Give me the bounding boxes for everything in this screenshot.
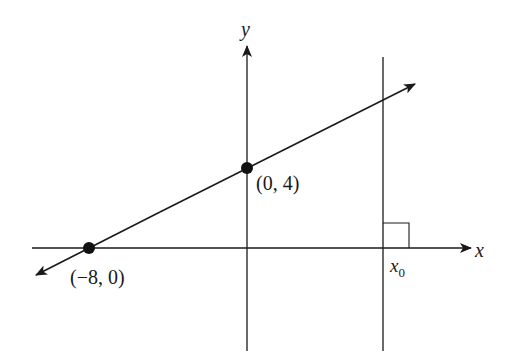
point-label-x-intercept: (−8, 0) — [70, 266, 125, 289]
right-angle-marker — [383, 223, 409, 248]
point-x-intercept — [83, 242, 95, 254]
x0-label-sub: 0 — [398, 265, 405, 280]
coordinate-diagram: y x x0 (0, 4) (−8, 0) — [0, 0, 510, 361]
y-axis-label: y — [239, 18, 250, 41]
x-axis-label: x — [474, 239, 484, 261]
x0-label: x0 — [389, 255, 405, 280]
point-y-intercept — [241, 162, 253, 174]
point-label-y-intercept: (0, 4) — [256, 172, 299, 195]
